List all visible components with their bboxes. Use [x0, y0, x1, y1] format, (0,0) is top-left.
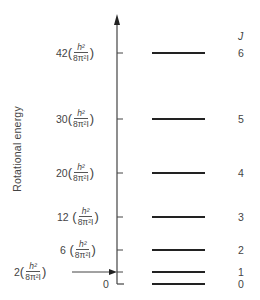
- j-label-0: 0: [238, 278, 244, 290]
- numerator: h²: [74, 108, 88, 119]
- j-label-5: 5: [238, 113, 244, 125]
- numerator: h²: [79, 206, 93, 217]
- denominator: 8π²I: [73, 119, 89, 129]
- y-axis-label: Rotational energy: [11, 94, 23, 204]
- coefficient: 30: [56, 113, 68, 125]
- numerator: h²: [76, 239, 90, 250]
- numerator: h²: [74, 42, 88, 53]
- energy-label-j3: 12 ( h²8π²I ): [57, 206, 99, 227]
- denominator: 8π²I: [25, 272, 41, 282]
- numerator: h²: [74, 162, 88, 173]
- energy-label-j5: 30 ( h²8π²I ): [56, 108, 94, 129]
- energy-label-j1: 2 ( h²8π²I ): [14, 261, 46, 282]
- j-label-6: 6: [238, 47, 244, 59]
- denominator: 8π²I: [73, 53, 89, 63]
- j-label-4: 4: [238, 167, 244, 179]
- coefficient: 42: [56, 47, 68, 59]
- j-label-2: 2: [238, 244, 244, 256]
- energy-label-j6: 42 ( h²8π²I ): [56, 42, 94, 63]
- j-label-3: 3: [238, 211, 244, 223]
- denominator: 8π²I: [78, 217, 94, 227]
- j-column-header: J: [238, 30, 243, 42]
- j1-pointer-arrow-icon: [109, 269, 117, 275]
- numerator: h²: [26, 261, 40, 272]
- coefficient: 12: [57, 211, 69, 223]
- axis-arrow-icon: [114, 14, 120, 25]
- energy-label-j2: 6 ( h²8π²I ): [60, 239, 96, 260]
- j-label-1: 1: [238, 266, 244, 278]
- energy-level-diagram: [0, 0, 260, 300]
- denominator: 8π²I: [75, 250, 91, 260]
- energy-label-j4: 20 ( h²8π²I ): [56, 162, 94, 183]
- coefficient: 20: [56, 167, 68, 179]
- energy-label-j0: 0: [103, 278, 109, 290]
- denominator: 8π²I: [73, 173, 89, 183]
